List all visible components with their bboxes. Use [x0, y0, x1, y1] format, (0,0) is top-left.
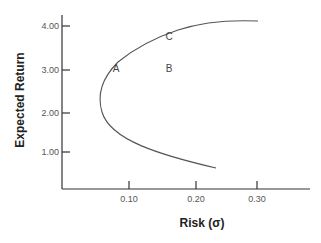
point-label-a: A	[113, 63, 120, 74]
risk-return-chart: 4.00 3.00 2.00 1.00 0.10 0.20 0.30 A B C…	[0, 0, 321, 243]
y-tick-label: 2.00	[41, 108, 59, 118]
x-tick-label: 0.10	[120, 194, 138, 204]
y-tick-label: 3.00	[41, 65, 59, 75]
y-tick-label: 4.00	[41, 21, 59, 31]
x-tick-label: 0.20	[187, 194, 205, 204]
efficient-frontier-curve	[100, 21, 258, 168]
point-label-c: C	[165, 31, 172, 42]
y-axis-title: Expected Return	[13, 52, 27, 147]
x-axis-title: Risk (σ)	[180, 216, 225, 230]
y-ticks: 4.00 3.00 2.00 1.00	[41, 21, 70, 157]
y-tick-label: 1.00	[41, 147, 59, 157]
point-label-b: B	[166, 63, 173, 74]
x-tick-label: 0.30	[248, 194, 266, 204]
x-ticks: 0.10 0.20 0.30	[120, 181, 266, 204]
